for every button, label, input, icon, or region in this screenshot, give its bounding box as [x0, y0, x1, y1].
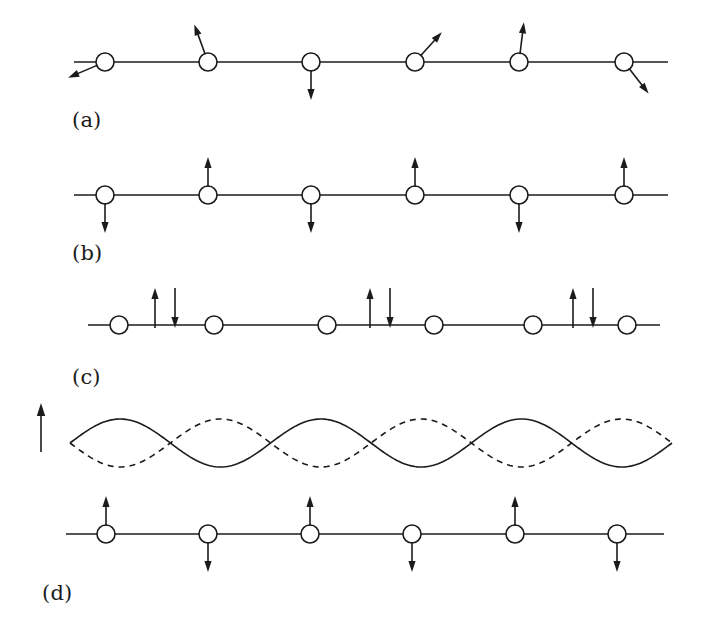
spin-flip-up-arrow-c-2-head	[569, 288, 576, 299]
spin-arrow-b-3-up-spin-arrow-head	[411, 157, 418, 168]
lattice-site-circle-c-3	[425, 316, 443, 334]
spin-arrow-a-5-down-right-spin-arrow	[629, 68, 649, 93]
spin-arrow-b-1-up-spin-arrow-head	[204, 157, 211, 168]
spin-flip-up-arrow-c-1	[366, 288, 373, 328]
lattice-site-circle-b-2	[302, 186, 320, 204]
lattice-site-circle-b-0	[96, 186, 114, 204]
lattice-site-circle-d-2	[301, 525, 319, 543]
spin-arrow-b-4-down-spin-arrow	[515, 203, 522, 233]
lattice-site-circle-b-3	[406, 186, 424, 204]
lattice-site-circle-b-5	[615, 186, 633, 204]
spin-arrow-d-1-down-spin-arrow-head	[204, 561, 211, 572]
spin-flip-down-arrow-c-0	[171, 288, 178, 328]
spin-arrow-a-0-down-left-spin-arrow-head	[68, 70, 80, 78]
spin-wave-solid-curve	[70, 419, 672, 467]
spin-arrow-a-3-up-right-spin-arrow-shaft	[420, 39, 435, 56]
spin-arrow-d-5-down-spin-arrow-head	[613, 561, 620, 572]
spin-arrow-d-2-up-spin-arrow	[306, 496, 313, 526]
spin-arrow-d-0-up-spin-arrow-head	[102, 496, 109, 507]
spin-arrow-a-4-up-spin-arrow-head	[519, 22, 526, 33]
lattice-site-circle-c-1	[205, 316, 223, 334]
spin-arrow-a-5-down-right-spin-arrow-shaft	[629, 68, 643, 86]
spin-arrow-d-2-up-spin-arrow-head	[306, 496, 313, 507]
spin-arrow-d-5-down-spin-arrow	[613, 542, 620, 572]
spin-arrow-a-2-down-spin-arrow	[307, 70, 314, 100]
spin-arrow-d-4-up-spin-arrow-head	[511, 496, 518, 507]
spin-arrow-d-1-down-spin-arrow	[204, 542, 211, 572]
lattice-site-circle-d-5	[608, 525, 626, 543]
spin-arrow-b-2-down-spin-arrow-head	[307, 222, 314, 233]
figure-canvas	[0, 0, 701, 627]
spin-arrow-a-1-up-left-spin-arrow-head	[194, 24, 201, 36]
spin-flip-down-arrow-c-0-head	[171, 317, 178, 328]
spin-arrow-b-2-down-spin-arrow	[307, 203, 314, 233]
lattice-site-circle-d-1	[199, 525, 217, 543]
lattice-site-circle-c-5	[618, 316, 636, 334]
spin-arrow-d-3-down-spin-arrow-head	[408, 561, 415, 572]
spin-arrow-b-5-up-spin-arrow	[620, 157, 627, 187]
spin-arrow-a-4-up-spin-arrow	[519, 22, 526, 54]
spin-arrow-d-3-down-spin-arrow	[408, 542, 415, 572]
lattice-site-circle-d-0	[97, 525, 115, 543]
lattice-site-circle-a-1	[199, 53, 217, 71]
spin-arrow-a-4-up-spin-arrow-shaft	[520, 31, 523, 54]
spin-arrow-d-4-up-spin-arrow	[511, 496, 518, 526]
spin-arrow-a-0-down-left-spin-arrow-shaft	[76, 65, 97, 74]
lattice-site-circle-b-1	[199, 186, 217, 204]
lattice-site-circle-d-4	[506, 525, 524, 543]
spin-flip-down-arrow-c-2	[589, 288, 596, 328]
spin-flip-up-arrow-c-0	[151, 288, 158, 328]
panel-label-b: (b)	[72, 243, 102, 264]
spin-flip-up-arrow-c-1-head	[366, 288, 373, 299]
spin-arrow-b-4-down-spin-arrow-head	[515, 222, 522, 233]
lattice-site-circle-c-2	[318, 316, 336, 334]
amplitude-axis-arrow-d	[37, 403, 45, 452]
spin-arrow-a-1-up-left-spin-arrow	[194, 24, 205, 54]
spin-arrow-a-0-down-left-spin-arrow	[68, 65, 97, 78]
spin-arrow-a-2-down-spin-arrow-head	[307, 89, 314, 100]
lattice-site-circle-d-3	[403, 525, 421, 543]
spin-flip-down-arrow-c-1	[386, 288, 393, 328]
spin-arrow-d-0-up-spin-arrow	[102, 496, 109, 526]
panel-label-c: (c)	[72, 367, 101, 388]
spin-flip-up-arrow-c-2	[569, 288, 576, 328]
spin-flip-up-arrow-c-0-head	[151, 288, 158, 299]
lattice-site-circle-a-2	[302, 53, 320, 71]
spin-flip-down-arrow-c-2-head	[589, 317, 596, 328]
lattice-site-circle-a-0	[96, 53, 114, 71]
spin-arrow-a-3-up-right-spin-arrow	[420, 32, 441, 56]
spin-arrow-b-5-up-spin-arrow-head	[620, 157, 627, 168]
panel-label-d: (d)	[42, 583, 72, 604]
spin-arrow-a-1-up-left-spin-arrow-shaft	[197, 33, 205, 55]
lattice-site-circle-c-0	[110, 316, 128, 334]
panel-label-a: (a)	[72, 110, 102, 131]
spin-arrow-b-3-up-spin-arrow	[411, 157, 418, 187]
lattice-site-circle-a-5	[615, 53, 633, 71]
spin-flip-down-arrow-c-1-head	[386, 317, 393, 328]
lattice-site-circle-a-4	[510, 53, 528, 71]
lattice-site-circle-c-4	[524, 316, 542, 334]
spin-chain-figure: (a) (b) (c) (d)	[0, 0, 701, 627]
spin-arrow-b-0-down-spin-arrow	[101, 203, 108, 233]
amplitude-axis-arrow-d-head	[37, 403, 45, 416]
lattice-site-circle-b-4	[510, 186, 528, 204]
spin-arrow-b-1-up-spin-arrow	[204, 157, 211, 187]
spin-arrow-b-0-down-spin-arrow-head	[101, 222, 108, 233]
